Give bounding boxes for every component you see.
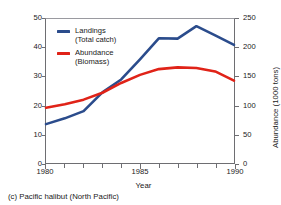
y-axis-right-tick-mark <box>235 47 239 48</box>
y-axis-left-tick-label: 50 <box>34 14 42 22</box>
y-axis-right-tick-label: 0 <box>243 160 247 168</box>
y-axis-left-tick-label: 40 <box>34 43 42 51</box>
legend-label: Abundance(Biomass) <box>75 48 113 66</box>
x-axis-minor-tick-mark <box>216 164 217 168</box>
x-axis-minor-tick-mark <box>102 164 103 168</box>
y-axis-right-tick-label: 150 <box>243 72 256 80</box>
x-axis-tick-label: 1980 <box>37 167 54 176</box>
y-axis-right-tick-label: 250 <box>243 14 256 22</box>
y-axis-right-tick-mark <box>235 76 239 77</box>
x-axis-minor-tick-mark <box>159 164 160 168</box>
legend: Landings(Total catch)Abundance(Biomass) <box>57 26 116 66</box>
y-axis-right-tick-label: 100 <box>243 102 256 110</box>
legend-label-line2: (Biomass) <box>75 57 113 66</box>
legend-label-line2: (Total catch) <box>75 35 116 44</box>
series-line-abundance <box>46 67 234 107</box>
legend-label-line1: Landings <box>75 26 116 35</box>
legend-swatch-abundance-icon <box>57 52 70 55</box>
x-axis-minor-tick-mark <box>64 164 65 168</box>
y-axis-right-title: Abundance (1000 tons) <box>271 67 280 148</box>
x-axis-minor-tick-mark <box>197 164 198 168</box>
x-axis-tick-label: 1990 <box>227 167 244 176</box>
y-axis-right-tick-label: 50 <box>243 131 251 139</box>
legend-entry: Landings(Total catch) <box>57 26 116 44</box>
x-axis-tick-label: 1985 <box>132 167 149 176</box>
figure-caption: (c) Pacific halibut (North Pacific) <box>8 192 119 201</box>
legend-entry: Abundance(Biomass) <box>57 48 116 66</box>
legend-label-line1: Abundance <box>75 48 113 57</box>
x-axis-minor-tick-mark <box>178 164 179 168</box>
figure-pacific-halibut: Landings (1000 tons) Abundance (1000 ton… <box>0 0 281 205</box>
y-axis-left-tick-label: 20 <box>34 102 42 110</box>
legend-label: Landings(Total catch) <box>75 26 116 44</box>
y-axis-right-tick-mark <box>235 106 239 107</box>
y-axis-right-tick-mark <box>235 135 239 136</box>
x-axis-minor-tick-mark <box>83 164 84 168</box>
y-axis-left-tick-label: 10 <box>34 131 42 139</box>
y-axis-right-tick-label: 200 <box>243 43 256 51</box>
y-axis-left-tick-label: 30 <box>34 72 42 80</box>
y-axis-right-tick-mark <box>235 18 239 19</box>
x-axis-title: Year <box>3 181 281 190</box>
x-axis-minor-tick-mark <box>121 164 122 168</box>
legend-swatch-landings-icon <box>57 30 70 33</box>
